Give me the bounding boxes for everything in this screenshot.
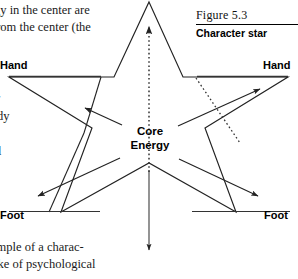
arrow-up-left xyxy=(85,108,122,125)
arrow-up-right xyxy=(178,89,260,126)
star-label-hand-left: Hand xyxy=(0,59,28,71)
core-energy-label: Core Energy xyxy=(110,124,190,152)
figure-title: Character star xyxy=(196,27,298,39)
body-text-bottom-line-2: ake of psychological xyxy=(0,256,95,273)
star-label-foot-right: Foot xyxy=(264,209,288,221)
left-arm-inner-line xyxy=(49,77,101,212)
body-text-top-line-2: from the center (the xyxy=(0,19,91,36)
star-label-foot-left: Foot xyxy=(0,209,24,221)
core-energy-line1: Core xyxy=(110,124,190,138)
figure-page: Core Energy Hand Hand Foot Foot Figure 5… xyxy=(0,0,298,279)
body-text-top-line-1: gy in the center are xyxy=(0,2,90,19)
figure-number: Figure 5.3 xyxy=(196,8,298,23)
core-energy-line2: Energy xyxy=(110,138,190,152)
body-text-left-line-2: dy xyxy=(0,108,10,125)
star-label-hand-right: Hand xyxy=(263,59,291,71)
figure-caption: Figure 5.3 Character star xyxy=(196,8,298,39)
caption-divider xyxy=(196,24,298,25)
body-text-bottom-line-1: ample of a charac- xyxy=(0,239,84,256)
body-text-left-line-3: l xyxy=(0,143,1,160)
